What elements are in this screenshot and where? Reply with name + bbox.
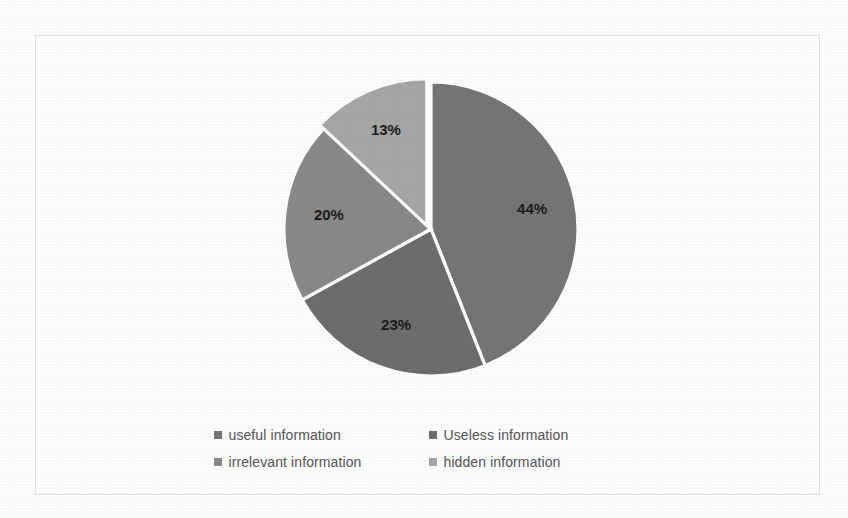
legend-swatch-icon: [429, 431, 437, 439]
legend-item-label: irrelevant information: [229, 454, 362, 470]
pie-slice-value-hidden-information: 13%: [371, 121, 401, 138]
legend-item-useful-information[interactable]: useful information: [214, 427, 429, 443]
pie-chart-plot-area: 44% 23% 20% 13%: [36, 36, 821, 391]
legend-swatch-icon: [214, 458, 222, 466]
chart-frame: 44% 23% 20% 13% useful information Usele…: [35, 35, 820, 495]
legend-row: irrelevant information hidden informatio…: [36, 448, 821, 475]
legend-item-hidden-information[interactable]: hidden information: [429, 454, 644, 470]
chart-legend: useful information Useless information i…: [36, 421, 821, 475]
legend-swatch-icon: [214, 431, 222, 439]
pie-slice-value-irrelevant-information: 20%: [314, 206, 344, 223]
pie-slice-value-useful-information: 44%: [517, 200, 547, 217]
legend-item-label: Useless information: [444, 427, 569, 443]
legend-item-irrelevant-information[interactable]: irrelevant information: [214, 454, 429, 470]
legend-item-label: useful information: [229, 427, 341, 443]
legend-row: useful information Useless information: [36, 421, 821, 448]
legend-item-useless-information[interactable]: Useless information: [429, 427, 644, 443]
pie-chart: 44% 23% 20% 13%: [36, 36, 821, 391]
legend-item-label: hidden information: [444, 454, 561, 470]
pie-slice-value-useless-information: 23%: [381, 316, 411, 333]
legend-swatch-icon: [429, 458, 437, 466]
